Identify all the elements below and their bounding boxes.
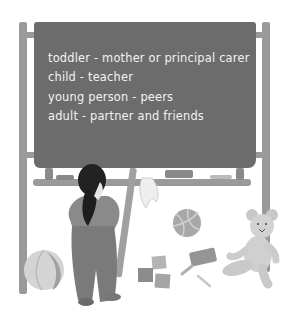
volleyball-icon — [173, 209, 201, 237]
eraser-icon — [189, 247, 217, 266]
child-figure — [69, 164, 121, 306]
toy-blocks-icon — [138, 255, 170, 288]
beach-ball-icon — [24, 250, 64, 290]
teddy-bear-icon — [221, 209, 278, 284]
toys-and-child-illustration — [0, 0, 297, 316]
chalk-icon — [182, 266, 210, 286]
cloth-icon — [140, 178, 158, 208]
